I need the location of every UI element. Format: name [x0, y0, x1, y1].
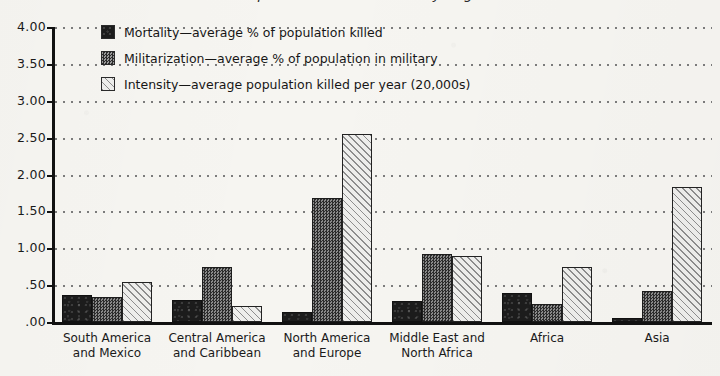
bar-mortality [172, 300, 202, 322]
bar-militarization [92, 297, 122, 322]
legend-label-mortality: Mortality—average % of population killed [124, 25, 383, 40]
bar-militarization [422, 254, 452, 322]
x-axis-category-label: South Americaand Mexico [52, 331, 162, 361]
y-axis-tick [47, 285, 55, 287]
y-axis-tick [47, 322, 55, 324]
bar-intensity [672, 187, 702, 322]
chart-title: Comparative Indices of War by Region [0, 0, 720, 4]
legend-swatch-intensity-icon [101, 77, 115, 91]
bar-militarization [532, 304, 562, 322]
gridline [55, 138, 712, 140]
x-axis-category-label: Middle East andNorth Africa [382, 331, 492, 361]
y-axis-tick-label: 4.00 [0, 19, 46, 34]
bar-militarization [202, 267, 232, 322]
x-axis-category-label: North Americaand Europe [272, 331, 382, 361]
bar-mortality [282, 312, 312, 322]
bar-intensity [232, 306, 262, 322]
bar-intensity [122, 282, 152, 322]
legend-swatch-mortality-icon [101, 25, 115, 39]
y-axis-tick-label: 3.00 [0, 93, 46, 108]
gridline [55, 248, 712, 250]
y-axis-tick-label: 1.00 [0, 240, 46, 255]
x-axis-category-label: Africa [492, 331, 602, 346]
y-axis-tick-label: .00 [0, 314, 46, 329]
y-axis-tick [47, 101, 55, 103]
chart-page: Comparative Indices of War by Region 4.0… [0, 0, 720, 376]
gridline [55, 285, 712, 287]
bar-mortality [392, 301, 422, 322]
y-axis-tick-label: 2.50 [0, 130, 46, 145]
bar-mortality [62, 295, 92, 322]
x-axis-category-label: Asia [602, 331, 712, 346]
y-axis-tick [47, 211, 55, 213]
gridline [55, 211, 712, 213]
legend-swatch-militarization-icon [101, 51, 115, 65]
bar-mortality [502, 293, 532, 323]
y-axis-tick [47, 138, 55, 140]
legend-item-intensity: Intensity—average population killed per … [101, 71, 470, 97]
y-axis-tick [47, 27, 55, 29]
y-axis-tick [47, 175, 55, 177]
y-axis-tick-label: 1.50 [0, 203, 46, 218]
bar-militarization [312, 198, 342, 322]
legend-label-intensity: Intensity—average population killed per … [124, 77, 470, 92]
gridline [55, 175, 712, 177]
y-axis-tick [47, 64, 55, 66]
gridline [55, 101, 712, 103]
bar-mortality [612, 318, 642, 322]
y-axis-tick-label: .50 [0, 277, 46, 292]
y-axis-tick [47, 248, 55, 250]
y-axis-tick-label: 2.00 [0, 167, 46, 182]
bar-intensity [452, 256, 482, 322]
legend-label-militarization: Militarization—average % of population i… [124, 51, 438, 66]
bar-intensity [562, 267, 592, 322]
y-axis-tick-label: 3.50 [0, 56, 46, 71]
bar-intensity [342, 134, 372, 322]
legend: Mortality—average % of population killed… [101, 19, 470, 97]
bar-militarization [642, 291, 672, 322]
legend-item-mortality: Mortality—average % of population killed [101, 19, 470, 45]
x-axis-line [52, 322, 712, 325]
legend-item-militarization: Militarization—average % of population i… [101, 45, 470, 71]
x-axis-category-label: Central Americaand Caribbean [162, 331, 272, 361]
